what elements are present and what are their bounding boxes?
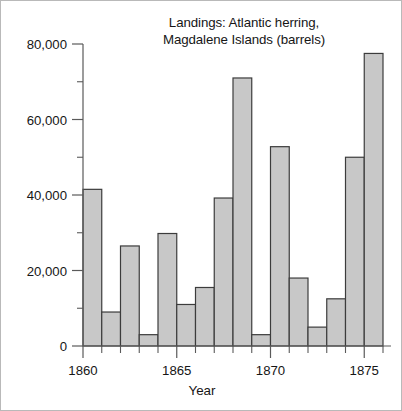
bar <box>289 278 308 346</box>
bar <box>346 157 365 346</box>
bar <box>327 299 346 346</box>
x-tick-label: 1870 <box>241 363 301 378</box>
bar <box>271 147 290 346</box>
x-tick-label: 1860 <box>53 363 113 378</box>
bar <box>308 327 327 346</box>
bar <box>102 312 121 346</box>
bar <box>252 335 271 346</box>
y-tick-label: 0 <box>3 339 67 354</box>
y-tick-label: 40,000 <box>3 188 67 203</box>
x-tick-label: 1875 <box>334 363 394 378</box>
bar <box>233 78 252 346</box>
chart-figure: Landings: Atlantic herring, Magdalene Is… <box>0 0 402 411</box>
bar <box>214 198 233 346</box>
bar <box>196 287 215 346</box>
y-tick-label: 80,000 <box>3 37 67 52</box>
bar <box>121 246 140 346</box>
x-axis-title: Year <box>1 383 402 398</box>
x-tick-label: 1865 <box>147 363 207 378</box>
y-tick-label: 60,000 <box>3 112 67 127</box>
bar <box>177 304 196 346</box>
bar <box>83 189 102 346</box>
y-tick-label: 20,000 <box>3 263 67 278</box>
bar <box>364 53 383 346</box>
bar <box>158 234 177 346</box>
bar <box>139 335 158 346</box>
bars-group <box>83 53 383 346</box>
